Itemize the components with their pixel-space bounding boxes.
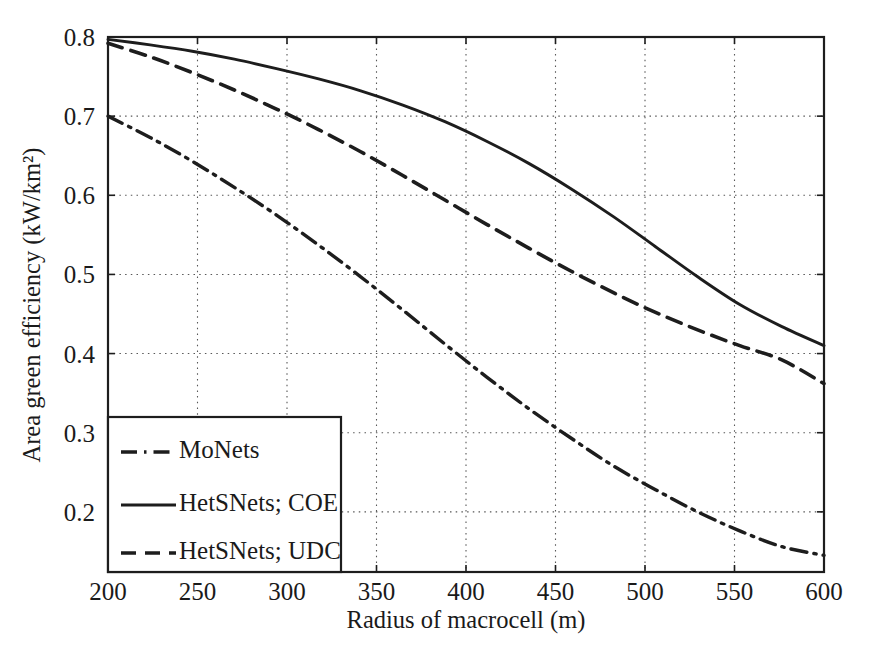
y-tick-labels: 0.20.30.40.50.60.70.8 bbox=[64, 24, 96, 526]
legend[interactable]: MoNetsHetSNets; COEHetSNets; UDC bbox=[108, 417, 341, 572]
chart-canvas: 200250300350400450500550600 0.20.30.40.5… bbox=[0, 0, 878, 659]
chart-figure: 200250300350400450500550600 0.20.30.40.5… bbox=[0, 0, 878, 659]
x-tick-label: 550 bbox=[716, 578, 754, 605]
x-tick-label: 350 bbox=[358, 578, 396, 605]
y-tick-label: 0.3 bbox=[64, 420, 95, 447]
x-tick-label: 450 bbox=[537, 578, 575, 605]
y-axis-title: Area green efficiency (kW/km²) bbox=[18, 147, 46, 462]
x-tick-label: 400 bbox=[447, 578, 485, 605]
legend-label: HetSNets; COE bbox=[179, 489, 338, 516]
y-tick-label: 0.6 bbox=[64, 182, 95, 209]
x-tick-label: 600 bbox=[805, 578, 843, 605]
y-tick-label: 0.2 bbox=[64, 499, 95, 526]
legend-label: MoNets bbox=[179, 436, 260, 463]
x-tick-label: 250 bbox=[179, 578, 217, 605]
x-axis-title: Radius of macrocell (m) bbox=[347, 606, 586, 634]
x-tick-label: 500 bbox=[626, 578, 664, 605]
x-tick-labels: 200250300350400450500550600 bbox=[89, 578, 843, 605]
y-tick-label: 0.7 bbox=[64, 103, 95, 130]
y-tick-label: 0.5 bbox=[64, 261, 95, 288]
y-tick-label: 0.8 bbox=[64, 24, 95, 51]
x-tick-label: 300 bbox=[268, 578, 306, 605]
y-tick-label: 0.4 bbox=[64, 341, 96, 368]
legend-label: HetSNets; UDC bbox=[179, 537, 341, 564]
x-tick-label: 200 bbox=[89, 578, 127, 605]
